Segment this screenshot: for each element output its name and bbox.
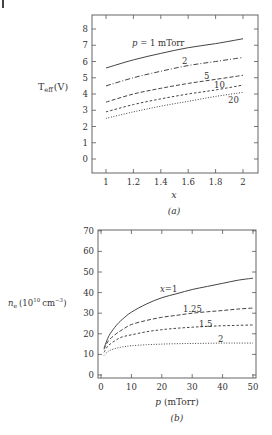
series-line xyxy=(104,308,253,349)
x-axis-label-b: p(mTorr) xyxy=(155,397,199,407)
y-tick-label: 30 xyxy=(83,308,94,318)
data-lines-a xyxy=(106,39,243,119)
series-line xyxy=(104,343,253,355)
y-tick-label: 40 xyxy=(83,288,94,298)
y-tick-label: 60 xyxy=(83,246,94,256)
plot-frame-b xyxy=(98,230,256,378)
series-label: 2 xyxy=(218,334,223,344)
x-tick-label: 20 xyxy=(156,382,167,392)
x-tick-label: 1.4 xyxy=(154,177,168,187)
chart-panel-b: 01020304050010203040506070 x=11.251.52 n… xyxy=(8,226,258,423)
figure: 11.21.41.61.82012345678 p = 1 mTorr25102… xyxy=(0,0,272,435)
x-axis-label-a: x xyxy=(171,189,177,200)
series-label: 1.5 xyxy=(199,319,213,329)
y-axis-label-b: ne(1010cm−3) xyxy=(8,297,66,309)
y-axis-label-a: Teff(V) xyxy=(38,81,68,94)
y-tick-label: 3 xyxy=(83,105,88,115)
y-tick-label: 1 xyxy=(83,138,88,148)
data-lines-b xyxy=(104,278,253,355)
y-tick-label: 50 xyxy=(83,267,94,277)
series-label: x=1 xyxy=(160,284,177,294)
series-line xyxy=(104,278,253,348)
y-tick-label: 4 xyxy=(83,89,88,99)
y-tick-label: 8 xyxy=(83,24,88,34)
x-tick-label: 30 xyxy=(187,382,198,392)
series-label: 5 xyxy=(204,71,209,81)
y-tick-label: 70 xyxy=(83,226,94,236)
y-tick-label: 6 xyxy=(83,57,88,67)
x-tick-label: 1 xyxy=(103,177,108,187)
y-tick-label: 20 xyxy=(83,329,94,339)
chart-panel-a: 11.21.41.61.82012345678 p = 1 mTorr25102… xyxy=(38,15,258,216)
x-tick-label: 0 xyxy=(98,382,103,392)
series-line xyxy=(104,325,253,352)
x-tick-label: 40 xyxy=(217,382,228,392)
x-tick-label: 10 xyxy=(126,382,137,392)
y-tick-label: 0 xyxy=(83,154,88,164)
y-tick-label: 10 xyxy=(83,349,94,359)
x-tick-label: 50 xyxy=(248,382,259,392)
series-labels-b: x=11.251.52 xyxy=(160,284,223,344)
series-label: p = 1 mTorr xyxy=(132,38,185,48)
series-label: 1.25 xyxy=(183,304,202,314)
x-tick-label: 1.2 xyxy=(127,177,141,187)
series-label: 2 xyxy=(182,56,187,66)
series-label: 20 xyxy=(228,95,239,105)
x-tick-label: 1.8 xyxy=(209,177,223,187)
y-tick-label: 7 xyxy=(83,40,88,50)
tick-labels-b: 01020304050010203040506070 xyxy=(83,226,258,392)
series-label: 10 xyxy=(214,80,225,90)
x-tick-label: 2 xyxy=(240,177,245,187)
panel-label-a: (a) xyxy=(168,206,181,216)
x-tick-label: 1.6 xyxy=(181,177,195,187)
axis-ticks-b xyxy=(98,230,256,378)
tick-labels-a: 11.21.41.61.82012345678 xyxy=(83,24,246,187)
y-tick-label: 5 xyxy=(83,73,88,83)
panel-label-b: (b) xyxy=(171,413,184,423)
y-tick-label: 0 xyxy=(89,370,94,380)
y-tick-label: 2 xyxy=(83,122,88,132)
